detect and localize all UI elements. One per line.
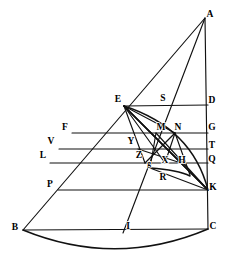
point-label-X: X (162, 155, 169, 165)
arc-bottom-BC (23, 229, 208, 249)
base-BC (23, 229, 208, 230)
point-label-E: E (115, 94, 121, 104)
point-label-Z: Z (136, 150, 142, 160)
point-label-B: B (12, 222, 19, 232)
point-label-F: F (62, 122, 68, 132)
point-label-S: S (160, 93, 165, 103)
diagram-canvas: AESDFMNGVYTLZXHQgPRKBIC (0, 0, 229, 273)
point-label-Q: Q (208, 154, 215, 164)
point-label-K: K (209, 182, 217, 192)
point-label-g: g (147, 159, 151, 168)
point-label-H: H (178, 155, 186, 165)
point-label-P: P (47, 179, 53, 189)
point-label-A: A (207, 9, 214, 19)
point-label-Y: Y (128, 136, 135, 146)
point-label-I: I (126, 221, 130, 231)
point-label-N: N (175, 122, 182, 132)
line-ED (124, 105, 208, 106)
point-label-V: V (48, 136, 55, 146)
line-E-to-N (124, 106, 175, 133)
point-label-D: D (209, 95, 216, 105)
point-label-R: R (160, 172, 167, 182)
point-label-L: L (40, 150, 46, 160)
labels-layer: AESDFMNGVYTLZXHQgPRKBIC (12, 9, 217, 232)
arc-small-g (150, 168, 190, 176)
point-label-G: G (208, 122, 216, 132)
point-label-T: T (209, 140, 216, 150)
geometric-diagram: AESDFMNGVYTLZXHQgPRKBIC (0, 0, 229, 273)
point-label-M: M (157, 122, 166, 132)
point-label-C: C (210, 221, 217, 231)
